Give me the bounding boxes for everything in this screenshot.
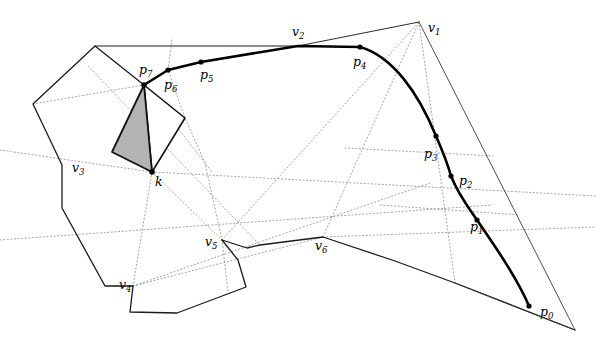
dotted-line-3 <box>133 172 152 286</box>
dotted-line-12 <box>0 205 492 240</box>
label-v2: v2 <box>292 24 304 41</box>
label-v1: v1 <box>428 20 440 37</box>
thick-path-curve <box>144 46 529 306</box>
dotted-line-14 <box>345 148 493 156</box>
label-v3: v3 <box>72 160 84 177</box>
polygon-bottom-right-outline <box>222 237 575 330</box>
label-p0: p0 <box>540 304 554 321</box>
point-k <box>149 169 155 175</box>
edge-right-tip-tail <box>455 283 575 330</box>
polygon-left-outline <box>33 46 144 286</box>
dotted-line-network <box>0 22 596 292</box>
point-labels: v1v2v3v4v5v6p0p1p2p3p4p5p6p7k <box>72 20 554 321</box>
label-p7: p7 <box>139 62 153 79</box>
label-v6: v6 <box>315 238 328 255</box>
point-p7 <box>141 82 147 88</box>
triangle-shaded-p7-k <box>112 85 152 172</box>
label-k: k <box>155 174 163 189</box>
label-v5: v5 <box>205 234 217 251</box>
polygon-outlines <box>33 22 575 330</box>
edge-v1-right-tip <box>419 22 575 330</box>
label-v4: v4 <box>119 277 131 294</box>
point-p5 <box>198 59 203 64</box>
point-p3 <box>433 133 438 138</box>
label-p4: p4 <box>353 54 366 71</box>
label-p2: p2 <box>459 173 472 190</box>
geodesic-curve <box>144 46 529 306</box>
label-p5: p5 <box>200 67 213 84</box>
label-p3: p3 <box>424 146 437 163</box>
dotted-line-6 <box>133 237 323 286</box>
label-p6: p6 <box>164 77 178 94</box>
label-p1: p1 <box>470 219 483 236</box>
point-p6 <box>165 67 170 72</box>
dotted-line-5 <box>152 172 596 196</box>
polygon-bottom-outline <box>130 240 246 313</box>
dotted-line-2 <box>168 40 228 292</box>
point-p2 <box>448 173 453 178</box>
point-p4 <box>357 44 362 49</box>
figure-canvas: v1v2v3v4v5v6p0p1p2p3p4p5p6p7k <box>0 0 608 353</box>
shaded-triangle-group <box>112 85 185 172</box>
dotted-line-16 <box>323 227 596 237</box>
dotted-line-15 <box>380 205 520 215</box>
dotted-line-10 <box>323 22 419 237</box>
point-p0 <box>526 303 531 308</box>
diagram-svg: v1v2v3v4v5v6p0p1p2p3p4p5p6p7k <box>0 0 608 353</box>
